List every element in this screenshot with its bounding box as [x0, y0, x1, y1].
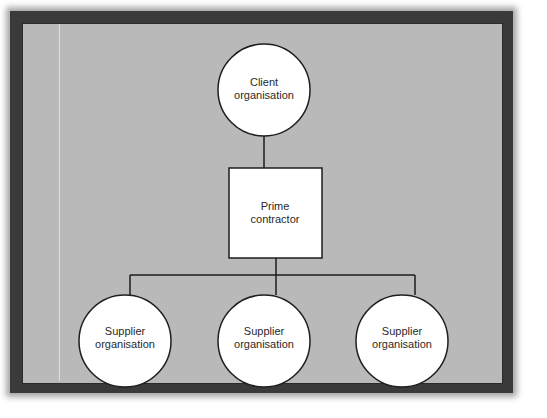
supplier-2-label-line1: Supplier [214, 325, 314, 338]
supplier-3-node-label: Supplier organisation [352, 325, 452, 351]
supplier-2-label-line2: organisation [214, 338, 314, 351]
supplier-1-label-line2: organisation [75, 338, 175, 351]
prime-label-line1: Prime [225, 200, 325, 213]
supplier-3-label-line1: Supplier [352, 325, 452, 338]
supplier-1-label-line1: Supplier [75, 325, 175, 338]
supplier-3-label-line2: organisation [352, 338, 452, 351]
client-label-line2: organisation [214, 89, 314, 102]
supplier-1-node-label: Supplier organisation [75, 325, 175, 351]
supplier-2-node-label: Supplier organisation [214, 325, 314, 351]
client-node-label: Client organisation [214, 76, 314, 102]
client-label-line1: Client [214, 76, 314, 89]
prime-label-line2: contractor [225, 213, 325, 226]
prime-node-label: Prime contractor [225, 200, 325, 226]
